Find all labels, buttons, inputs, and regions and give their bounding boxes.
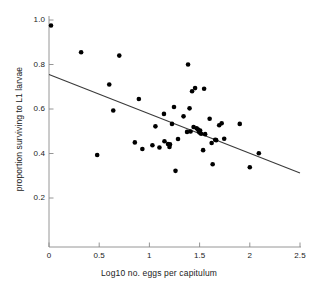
scatter-point [168, 142, 173, 147]
y-axis-label-wrapper: proportion surviving to L1 larvae [8, 49, 26, 209]
scatter-point [140, 147, 145, 152]
scatter-point [49, 23, 54, 28]
x-tick-label: 1 [134, 251, 164, 260]
x-tick-label: 2 [235, 251, 265, 260]
y-tick-label: 0.4 [14, 149, 45, 158]
x-axis-label: Log10 no. eggs per capitulum [0, 268, 318, 278]
plot-canvas [0, 0, 318, 292]
scatter-plot-figure: proportion surviving to L1 larvae Log10 … [0, 0, 318, 292]
regression-line [49, 75, 300, 174]
scatter-point [172, 105, 177, 110]
scatter-point [107, 82, 112, 87]
scatter-point [79, 50, 84, 55]
scatter-point [153, 124, 158, 129]
scatter-point [201, 148, 206, 153]
scatter-point [199, 131, 204, 136]
scatter-point [173, 169, 178, 174]
scatter-point [209, 141, 214, 146]
x-tick-label: 0.5 [84, 251, 114, 260]
scatter-point [207, 116, 212, 121]
y-axis-ticks [49, 20, 54, 198]
scatter-point [95, 153, 100, 158]
scatter-point [214, 138, 219, 143]
y-tick-label: 0.8 [14, 60, 45, 69]
scatter-point [188, 129, 193, 134]
scatter-point [133, 140, 138, 145]
scatter-point [203, 132, 208, 137]
scatter-point [176, 137, 181, 142]
scatter-point [248, 165, 253, 170]
scatter-point [170, 122, 175, 127]
x-axis-ticks [49, 243, 300, 248]
scatter-point [162, 112, 167, 117]
y-axis-label: proportion surviving to L1 larvae [14, 67, 24, 191]
scatter-point [157, 145, 162, 150]
scatter-point [257, 151, 262, 156]
y-tick-label: 0.6 [14, 104, 45, 113]
scatter-point [150, 143, 155, 148]
scatter-point [193, 86, 198, 91]
scatter-point [137, 97, 142, 102]
scatter-point [111, 108, 116, 113]
scatter-point [187, 106, 192, 111]
scatter-point [222, 137, 227, 142]
data-points [49, 23, 261, 173]
x-tick-label: 0 [34, 251, 64, 260]
y-tick-label: 1.0 [14, 15, 45, 24]
scatter-point [219, 121, 224, 126]
y-tick-label: 0.2 [14, 193, 45, 202]
scatter-point [181, 114, 186, 119]
scatter-point [186, 62, 191, 67]
scatter-point [210, 162, 215, 167]
axes [49, 16, 301, 247]
scatter-point [117, 53, 122, 58]
scatter-point [202, 86, 207, 91]
regression-line-segment [49, 75, 300, 174]
scatter-point [237, 122, 242, 127]
x-tick-label: 1.5 [185, 251, 215, 260]
x-tick-label: 2.5 [285, 251, 315, 260]
